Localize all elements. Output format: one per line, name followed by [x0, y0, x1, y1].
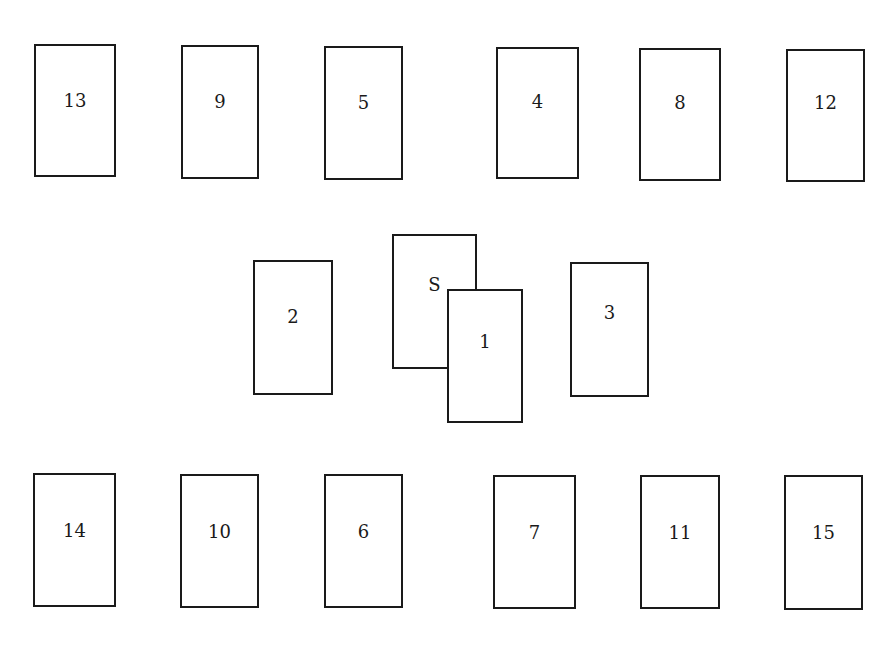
card-label: 14	[35, 520, 114, 541]
card-5: 5	[324, 46, 403, 180]
card-8: 8	[639, 48, 721, 181]
card-14: 14	[33, 473, 116, 607]
card-label: 10	[182, 521, 257, 542]
card-11: 11	[640, 475, 720, 609]
card-label: 15	[786, 522, 861, 543]
card-label: 7	[495, 522, 574, 543]
card-label: 1	[449, 331, 521, 352]
card-label: 3	[572, 302, 647, 323]
card-4: 4	[496, 47, 579, 179]
card-3: 3	[570, 262, 649, 397]
card-1: 1	[447, 289, 523, 423]
card-9: 9	[181, 45, 259, 179]
card-label: 8	[641, 92, 719, 113]
card-13: 13	[34, 44, 116, 177]
card-2: 2	[253, 260, 333, 395]
card-12: 12	[786, 49, 865, 182]
card-label: 11	[642, 522, 718, 543]
card-15: 15	[784, 475, 863, 610]
card-10: 10	[180, 474, 259, 608]
card-7: 7	[493, 475, 576, 609]
card-label: 9	[183, 91, 257, 112]
card-label: 13	[36, 90, 114, 111]
card-label: 12	[788, 92, 863, 113]
card-label: 5	[326, 92, 401, 113]
card-6: 6	[324, 474, 403, 608]
card-label: 4	[498, 91, 577, 112]
card-label: 2	[255, 306, 331, 327]
card-label: 6	[326, 521, 401, 542]
